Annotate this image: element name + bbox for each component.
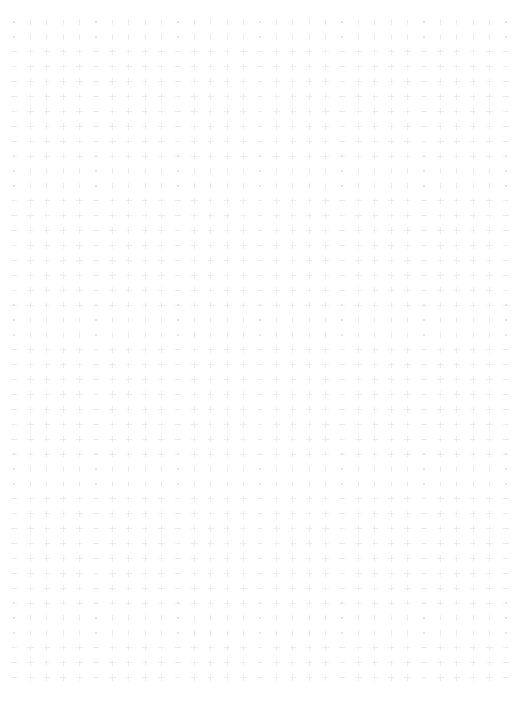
dot-grid-canvas[interactable]: [0, 0, 518, 714]
dot-grid-surface[interactable]: [0, 0, 518, 714]
dot-grid-svg: [0, 0, 518, 714]
